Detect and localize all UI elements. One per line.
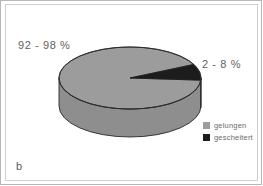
pie-chart-svg — [0, 0, 263, 186]
chart-legend: gelungen gescheitert — [203, 120, 259, 144]
data-label-gelungen: 92 - 98 % — [18, 39, 70, 51]
legend-label-gescheitert: gescheitert — [214, 133, 253, 142]
legend-item-gelungen: gelungen — [203, 120, 259, 130]
legend-item-gescheitert: gescheitert — [203, 132, 259, 142]
legend-swatch-gescheitert — [203, 134, 210, 141]
legend-label-gelungen: gelungen — [214, 121, 246, 130]
figure-container: 92 - 98 % 2 - 8 % gelungen gescheitert b — [0, 0, 263, 186]
legend-swatch-gelungen — [203, 122, 210, 129]
pie-chart: 92 - 98 % 2 - 8 % gelungen gescheitert — [0, 0, 263, 186]
figure-letter-label: b — [16, 160, 22, 172]
data-label-gescheitert: 2 - 8 % — [202, 58, 241, 70]
